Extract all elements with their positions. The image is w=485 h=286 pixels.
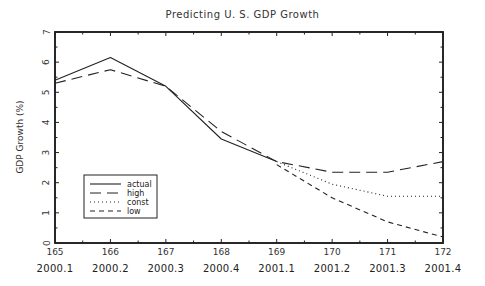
x-date-label: 2001.4 (425, 263, 462, 274)
x-date-label: 2000.4 (203, 263, 240, 274)
y-tick-label: 3 (42, 150, 52, 156)
x-date-label: 2001.2 (314, 263, 351, 274)
x-date-label: 2000.2 (92, 263, 129, 274)
line-chart: 012345671652000.11662000.21672000.316820… (0, 0, 485, 286)
y-tick-label: 4 (42, 119, 52, 125)
series-actual (55, 58, 277, 162)
x-tick-label: 166 (102, 247, 119, 257)
legend-label-const: const (127, 198, 149, 207)
legend-label-high: high (127, 189, 144, 198)
y-tick-label: 6 (42, 59, 52, 65)
x-tick-label: 170 (324, 247, 341, 257)
legend-label-actual: actual (127, 180, 152, 189)
x-tick-label: 165 (46, 247, 63, 257)
series-high (55, 70, 443, 173)
series-low (277, 165, 443, 237)
x-tick-label: 168 (213, 247, 230, 257)
x-tick-label: 169 (268, 247, 285, 257)
x-date-label: 2000.1 (37, 263, 74, 274)
legend: actualhighconstlow (84, 175, 157, 218)
x-date-label: 2001.1 (258, 263, 295, 274)
y-tick-label: 5 (42, 89, 52, 95)
y-tick-label: 1 (42, 210, 52, 216)
legend-label-low: low (127, 207, 141, 216)
x-date-label: 2000.3 (147, 263, 184, 274)
x-tick-label: 167 (157, 247, 174, 257)
x-tick-label: 172 (434, 247, 451, 257)
y-tick-label: 0 (42, 240, 52, 246)
y-tick-label: 2 (42, 180, 52, 186)
y-axis-label: GDP Growth (%) (15, 100, 25, 173)
plot-axes: 012345671652000.11662000.21672000.316820… (37, 29, 462, 274)
y-tick-label: 7 (42, 29, 52, 35)
x-tick-label: 171 (379, 247, 396, 257)
x-date-label: 2001.3 (369, 263, 406, 274)
